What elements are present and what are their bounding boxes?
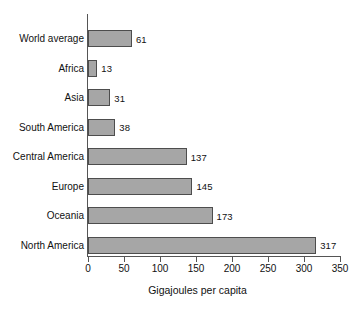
- bar-rect: [88, 148, 187, 165]
- x-tick-mark: [340, 257, 341, 262]
- bar-value-label: 31: [114, 92, 125, 103]
- category-label-text: North America: [21, 240, 84, 251]
- category-label: Central America: [4, 148, 84, 165]
- x-tick-label: 300: [296, 263, 313, 274]
- bar-row: 145Europe: [88, 178, 348, 195]
- category-label: South America: [4, 119, 84, 136]
- bar-value-label: 145: [196, 181, 212, 192]
- x-tick-label: 0: [85, 263, 91, 274]
- category-label-text: Africa: [58, 63, 84, 74]
- category-label: Africa: [4, 60, 84, 77]
- x-tick-label: 200: [224, 263, 241, 274]
- bar-rect: [88, 89, 110, 106]
- x-tick-label: 50: [118, 263, 129, 274]
- category-label: Oceania: [4, 207, 84, 224]
- x-tick-label: 150: [188, 263, 205, 274]
- bar-row: 61World average: [88, 30, 348, 47]
- bar-rect: [88, 30, 132, 47]
- plot-area: 61World average13Africa31Asia38South Ame…: [88, 16, 340, 256]
- bar-rect: [88, 60, 97, 77]
- bar-row: 38South America: [88, 119, 348, 136]
- category-label-text: South America: [19, 122, 84, 133]
- bar-row: 31Asia: [88, 89, 348, 106]
- bar-rect: [88, 178, 192, 195]
- category-label: North America: [4, 237, 84, 254]
- bar-value-label: 61: [136, 33, 147, 44]
- x-tick-label: 350: [332, 263, 349, 274]
- x-tick-mark: [160, 257, 161, 262]
- category-label-text: Central America: [13, 151, 84, 162]
- x-tick-mark: [232, 257, 233, 262]
- category-label-text: Oceania: [47, 210, 84, 221]
- x-tick-label: 100: [152, 263, 169, 274]
- x-axis-title-label: Gigajoules per capita: [148, 284, 247, 296]
- bar-row: 137Central America: [88, 148, 348, 165]
- category-label-text: Asia: [65, 92, 84, 103]
- bar-rect: [88, 119, 115, 136]
- category-label-text: World average: [19, 33, 84, 44]
- bar-row: 13Africa: [88, 60, 348, 77]
- x-tick-mark: [124, 257, 125, 262]
- bar-value-label: 173: [217, 210, 233, 221]
- x-axis-title: Gigajoules per capita: [0, 284, 353, 296]
- bar-rect: [88, 237, 316, 254]
- bar-rect: [88, 207, 213, 224]
- x-tick-mark: [268, 257, 269, 262]
- bar-row: 317North America: [88, 237, 348, 254]
- bar-value-label: 13: [101, 63, 112, 74]
- category-label-text: Europe: [52, 181, 84, 192]
- bar-value-label: 38: [119, 122, 130, 133]
- category-label: Asia: [4, 89, 84, 106]
- bar-row: 173Oceania: [88, 207, 348, 224]
- bar-value-label: 317: [320, 240, 336, 251]
- x-tick-mark: [304, 257, 305, 262]
- x-axis-line: [87, 256, 341, 257]
- category-label: World average: [4, 30, 84, 47]
- bar-value-label: 137: [191, 151, 207, 162]
- x-tick-label: 250: [260, 263, 277, 274]
- bar-chart-figure: 61World average13Africa31Asia38South Ame…: [0, 0, 353, 312]
- x-tick-mark: [88, 257, 89, 262]
- x-tick-mark: [196, 257, 197, 262]
- category-label: Europe: [4, 178, 84, 195]
